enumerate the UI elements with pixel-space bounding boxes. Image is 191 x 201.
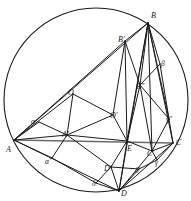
- seg-alphapr-D: [52, 158, 96, 183]
- point-label-beta: β: [161, 60, 165, 68]
- seg-Aprime-Dprime: [67, 135, 111, 167]
- seg-A-Aprime: [14, 135, 67, 140]
- point-label-Aprime: A': [62, 131, 69, 139]
- point-label-Oprime: O': [110, 112, 118, 120]
- figure-canvas: [0, 0, 191, 201]
- seg-B-gammadpr: [148, 23, 169, 119]
- seg-A-C-baseline: [14, 140, 173, 143]
- seg-Aprime-O: [67, 94, 73, 135]
- geometry-figure: ABCDEOO'A'B'C'D'B''αα'βγγ''δδ': [0, 0, 191, 201]
- point-label-Dprime: D': [104, 165, 112, 173]
- point-label-B: B: [151, 12, 156, 20]
- seg-Aprime-Oprime: [67, 115, 113, 135]
- point-label-Bdprime: B'': [136, 83, 144, 91]
- seg-A-alphapr: [14, 140, 52, 158]
- point-label-Bprime: B': [118, 36, 125, 44]
- point-label-E: E: [127, 145, 132, 153]
- point-label-gammadpr: γ'': [166, 116, 172, 124]
- point-label-gamma: γ: [155, 159, 158, 167]
- seg-Aprime-E: [67, 135, 127, 141]
- segments-layer: [14, 23, 173, 191]
- circumscribing-circle: [4, 8, 188, 192]
- point-label-deltapr: δ': [135, 167, 140, 175]
- seg-Bprime-B: [125, 23, 148, 41]
- point-label-D: D: [121, 190, 127, 198]
- point-label-C: C: [176, 139, 181, 147]
- seg-O-Oprime: [73, 94, 113, 115]
- point-label-Cprime: C': [147, 150, 154, 158]
- seg-Bprime-E: [125, 41, 127, 141]
- point-label-delta: δ: [92, 180, 96, 188]
- point-label-O: O: [68, 89, 74, 97]
- point-label-A: A: [6, 146, 11, 154]
- point-label-alpha: α: [31, 118, 35, 126]
- point-label-alphapr: α': [45, 158, 51, 166]
